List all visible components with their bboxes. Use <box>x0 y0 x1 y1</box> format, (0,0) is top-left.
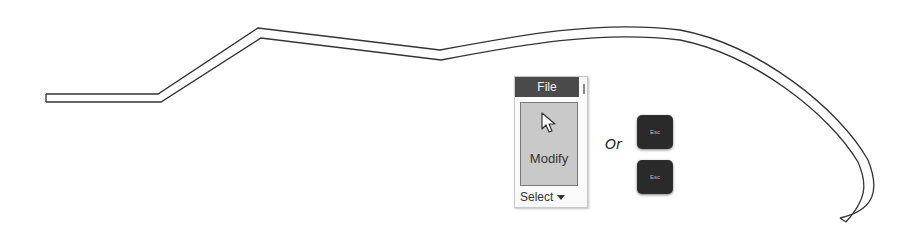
esc-key[interactable]: Esc <box>637 160 673 194</box>
modify-button[interactable]: Modify <box>520 102 578 186</box>
modify-label: Modify <box>521 151 577 166</box>
select-label: Select <box>520 190 553 204</box>
select-dropdown[interactable]: Select <box>520 190 565 204</box>
cursor-arrow-icon <box>539 111 559 135</box>
file-tab[interactable]: File <box>515 77 579 97</box>
caret-down-icon <box>557 195 565 200</box>
path-outline-shape <box>0 0 909 231</box>
diagram-canvas: File Modify Select Or Esc Esc <box>0 0 909 231</box>
ribbon-panel: File Modify Select <box>514 76 588 208</box>
ribbon-scroll-indicator <box>583 84 585 94</box>
or-label: Or <box>605 136 622 152</box>
esc-key[interactable]: Esc <box>637 115 673 149</box>
